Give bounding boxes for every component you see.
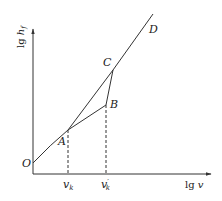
point-label-d: D	[148, 23, 158, 36]
point-label-c: C	[103, 56, 112, 69]
line-c-d	[113, 14, 153, 70]
x-axis-label: lg v	[185, 179, 204, 190]
tick-label-vk: vk	[63, 178, 73, 192]
point-label-a: A	[57, 135, 66, 148]
tick-label-vk-prime: v′k	[101, 178, 110, 192]
diagram-canvas: lg hf lg v O A B C D vk v′k	[0, 0, 222, 201]
point-label-o: O	[22, 157, 31, 170]
line-a-b	[68, 105, 106, 130]
point-label-b: B	[109, 98, 118, 111]
y-axis-label: lg hf	[15, 25, 28, 48]
